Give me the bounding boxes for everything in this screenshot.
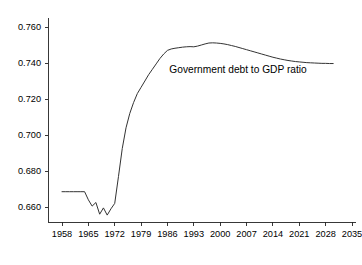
x-tick-label: 1993 xyxy=(184,229,204,239)
y-tick-group: 0.6600.6800.7000.7200.7400.760 xyxy=(18,22,48,212)
x-tick-label: 1958 xyxy=(52,229,72,239)
x-tick-label: 2028 xyxy=(315,229,335,239)
y-tick-label: 0.700 xyxy=(18,130,41,140)
x-tick-label: 1986 xyxy=(157,229,177,239)
x-tick-label: 1979 xyxy=(131,229,151,239)
y-tick-label: 0.660 xyxy=(18,202,41,212)
y-axis: 0.6600.6800.7000.7200.7400.760 xyxy=(18,18,48,222)
chart-figure: 0.6600.6800.7000.7200.7400.760 195819651… xyxy=(0,0,362,265)
y-tick-label: 0.680 xyxy=(18,166,41,176)
y-tick-label: 0.740 xyxy=(18,58,41,68)
x-tick-label: 2021 xyxy=(289,229,309,239)
x-tick-label: 2035 xyxy=(342,229,362,239)
line-chart: 0.6600.6800.7000.7200.7400.760 195819651… xyxy=(0,0,362,265)
x-tick-group: 1958196519721979198619932000200720142021… xyxy=(52,222,362,239)
x-tick-label: 1965 xyxy=(78,229,98,239)
series-annotation-label: Government debt to GDP ratio xyxy=(169,64,307,75)
annotation-group: Government debt to GDP ratio xyxy=(169,64,307,75)
y-tick-label: 0.720 xyxy=(18,94,41,104)
x-axis: 1958196519721979198619932000200720142021… xyxy=(48,222,362,239)
x-tick-label: 2014 xyxy=(263,229,283,239)
x-tick-label: 2000 xyxy=(210,229,230,239)
x-tick-label: 2007 xyxy=(236,229,256,239)
y-tick-label: 0.760 xyxy=(18,22,41,32)
x-tick-label: 1972 xyxy=(105,229,125,239)
